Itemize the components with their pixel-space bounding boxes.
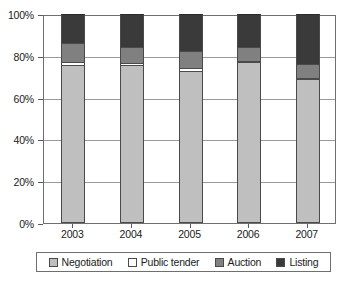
bar-segment-negotiation[interactable] [120, 65, 144, 223]
legend-item-negotiation[interactable]: Negotiation [49, 257, 113, 268]
bar-segment-auction[interactable] [120, 47, 144, 63]
x-tick-mark [72, 224, 73, 228]
bar-2006[interactable] [237, 14, 261, 223]
y-tick-label: 60% [14, 94, 34, 104]
legend-swatch-icon [215, 258, 224, 267]
legend-label: Negotiation [62, 257, 113, 268]
x-tick-label: 2007 [295, 228, 318, 240]
legend-label: Listing [289, 257, 318, 268]
bar-segment-auction[interactable] [237, 47, 261, 61]
bar-segment-listing[interactable] [296, 14, 320, 64]
bar-segment-auction[interactable] [179, 51, 203, 69]
legend-swatch-icon [49, 258, 58, 267]
legend-label: Auction [228, 257, 262, 268]
y-tick-label: 40% [14, 135, 34, 145]
bar-segment-auction[interactable] [61, 43, 85, 62]
y-tick-mark [38, 224, 43, 225]
bar-segment-negotiation[interactable] [61, 65, 85, 223]
x-tick-label: 2006 [237, 228, 260, 240]
x-tick-mark [307, 224, 308, 228]
bar-segment-negotiation[interactable] [179, 71, 203, 223]
x-tick-label: 2005 [178, 228, 201, 240]
y-tick-label: 80% [14, 52, 34, 62]
stacked-bar-chart: 0%20%40%60%80%100% 20032004200520062007 … [0, 0, 361, 285]
y-tick-label: 0% [19, 219, 34, 229]
x-tick-label: 2004 [120, 228, 143, 240]
x-axis: 20032004200520062007 [43, 228, 336, 244]
legend-label: Public tender [141, 257, 200, 268]
bar-2004[interactable] [120, 14, 144, 223]
legend-item-auction[interactable]: Auction [215, 257, 262, 268]
bar-segment-auction[interactable] [296, 64, 320, 78]
legend-item-listing[interactable]: Listing [276, 257, 318, 268]
plot-wrapper: 0%20%40%60%80%100% 20032004200520062007 [0, 0, 361, 240]
bar-segment-listing[interactable] [120, 14, 144, 47]
bar-segment-listing[interactable] [237, 14, 261, 47]
y-tick-label: 100% [8, 10, 34, 20]
legend-item-public-tender[interactable]: Public tender [128, 257, 200, 268]
bar-segment-negotiation[interactable] [237, 62, 261, 223]
x-tick-label: 2003 [61, 228, 84, 240]
x-tick-mark [190, 224, 191, 228]
legend-swatch-icon [276, 258, 285, 267]
bar-segment-negotiation[interactable] [296, 79, 320, 223]
plot-area [43, 15, 336, 224]
bar-2003[interactable] [61, 14, 85, 223]
bar-2007[interactable] [296, 14, 320, 223]
x-tick-mark [248, 224, 249, 228]
bar-2005[interactable] [179, 14, 203, 223]
bar-segment-listing[interactable] [61, 14, 85, 43]
y-tick-label: 20% [14, 177, 34, 187]
bar-segment-listing[interactable] [179, 14, 203, 51]
x-tick-mark [131, 224, 132, 228]
chart-legend: NegotiationPublic tenderAuctionListing [36, 252, 331, 272]
legend-swatch-icon [128, 258, 137, 267]
y-axis: 0%20%40%60%80%100% [0, 0, 40, 240]
